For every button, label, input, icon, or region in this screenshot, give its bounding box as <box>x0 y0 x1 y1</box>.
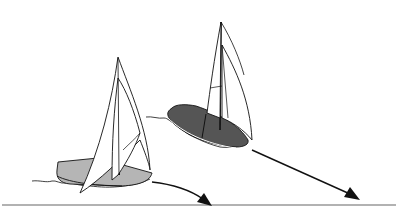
sailboats-illustration <box>0 0 407 222</box>
main-sail <box>112 78 140 180</box>
light-boat-course-arrow <box>152 182 212 206</box>
dark-boat-course-arrow <box>252 150 360 200</box>
dark-hull-sailboat <box>146 22 252 148</box>
light-hull-sailboat <box>32 57 152 193</box>
main-sail <box>207 22 221 118</box>
